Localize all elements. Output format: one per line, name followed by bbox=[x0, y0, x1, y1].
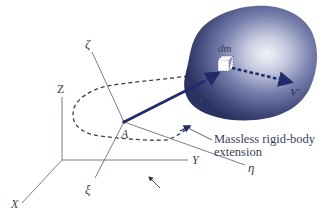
y-axis-label: Y bbox=[192, 153, 200, 167]
xi-axis-label: ξ bbox=[85, 182, 91, 197]
pointer-arrow bbox=[149, 177, 160, 188]
x-axis-label: X bbox=[10, 197, 19, 211]
eta-axis-label: η bbox=[248, 160, 254, 175]
zeta-axis-label: ζ bbox=[85, 36, 91, 51]
point-a-label: A bbox=[120, 127, 129, 141]
annotation-line-2: extension bbox=[214, 145, 263, 159]
dm-label: dm bbox=[218, 42, 232, 54]
annotation-leader bbox=[188, 128, 212, 140]
annotation-line-1: Massless rigid-body bbox=[214, 132, 316, 146]
inertial-axes bbox=[22, 97, 188, 203]
velocity-label: V' bbox=[290, 86, 300, 98]
z-axis-label: Z bbox=[57, 82, 64, 96]
rho-label: ρ bbox=[199, 89, 206, 103]
xi-axis bbox=[95, 122, 124, 178]
rigid-body bbox=[184, 6, 317, 121]
rigid-body-diagram: Z X Y ζ ξ η A dm ρ V' Massless rigid-bod… bbox=[0, 0, 325, 212]
dashed-extension-path bbox=[73, 76, 190, 140]
x-axis bbox=[22, 160, 62, 203]
point-a-marker bbox=[122, 120, 126, 124]
zeta-axis bbox=[92, 52, 124, 122]
